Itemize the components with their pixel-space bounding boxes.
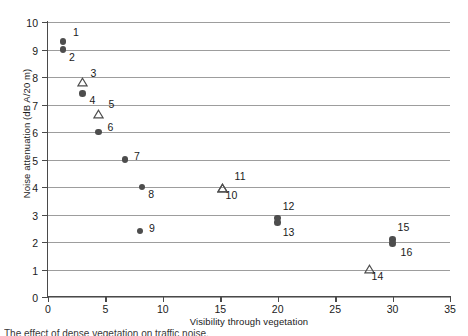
figure-caption: The effect of dense vegetation on traffi… bbox=[4, 328, 464, 336]
y-tick-label-1: 1 bbox=[14, 265, 38, 277]
y-tick-label-2: 2 bbox=[14, 237, 38, 249]
data-point-label-10: 10 bbox=[226, 189, 238, 201]
data-point-8 bbox=[139, 184, 146, 191]
data-point-label-12: 12 bbox=[283, 200, 295, 212]
y-tick-mark-1 bbox=[42, 270, 47, 271]
data-point-label-1: 1 bbox=[73, 26, 79, 38]
x-tick-mark-25 bbox=[335, 297, 336, 302]
data-point-label-6: 6 bbox=[108, 121, 114, 133]
x-tick-mark-35 bbox=[450, 297, 451, 302]
gridline-y-0 bbox=[48, 297, 450, 298]
data-point-2 bbox=[60, 46, 67, 53]
y-tick-mark-6 bbox=[42, 132, 47, 133]
data-point-label-8: 8 bbox=[148, 188, 154, 200]
data-point-label-9: 9 bbox=[149, 222, 155, 234]
data-point-label-11: 11 bbox=[235, 170, 246, 182]
x-tick-label-0: 0 bbox=[33, 303, 63, 315]
data-point-label-5: 5 bbox=[109, 98, 115, 110]
data-point-9 bbox=[137, 228, 144, 235]
x-tick-label-5: 5 bbox=[90, 303, 120, 315]
data-point-label-14: 14 bbox=[372, 270, 384, 282]
y-tick-mark-0 bbox=[42, 297, 47, 298]
data-point-3 bbox=[77, 77, 88, 87]
y-tick-label-10: 10 bbox=[14, 17, 38, 29]
y-tick-mark-3 bbox=[42, 215, 47, 216]
y-tick-mark-10 bbox=[42, 22, 47, 23]
data-point-label-7: 7 bbox=[134, 150, 140, 162]
data-point-label-3: 3 bbox=[90, 67, 96, 79]
data-point-label-16: 16 bbox=[401, 246, 413, 258]
x-tick-mark-15 bbox=[220, 297, 221, 302]
y-tick-mark-9 bbox=[42, 50, 47, 51]
y-tick-label-4: 4 bbox=[14, 182, 38, 194]
x-tick-label-10: 10 bbox=[148, 303, 178, 315]
x-tick-mark-30 bbox=[393, 297, 394, 302]
x-tick-label-15: 15 bbox=[205, 303, 235, 315]
x-tick-mark-20 bbox=[278, 297, 279, 302]
y-tick-label-3: 3 bbox=[14, 210, 38, 222]
data-point-13 bbox=[274, 219, 281, 226]
data-point-1 bbox=[60, 38, 67, 45]
data-point-6 bbox=[95, 129, 102, 136]
y-tick-label-7: 7 bbox=[14, 100, 38, 112]
y-tick-label-9: 9 bbox=[14, 45, 38, 57]
y-tick-label-8: 8 bbox=[14, 72, 38, 84]
x-tick-label-35: 35 bbox=[435, 303, 465, 315]
data-point-label-15: 15 bbox=[398, 221, 410, 233]
x-tick-mark-5 bbox=[105, 297, 106, 302]
x-tick-label-20: 20 bbox=[263, 303, 293, 315]
x-tick-label-30: 30 bbox=[378, 303, 408, 315]
y-tick-mark-4 bbox=[42, 187, 47, 188]
x-tick-mark-10 bbox=[163, 297, 164, 302]
data-point-label-4: 4 bbox=[89, 94, 95, 106]
x-tick-label-25: 25 bbox=[320, 303, 350, 315]
x-axis-title: Visibility through vegetation bbox=[48, 316, 450, 327]
data-point-7 bbox=[122, 156, 129, 163]
data-point-4 bbox=[79, 90, 86, 97]
scatter-chart-figure: Noise attenuation (dB A/20 m) Visibility… bbox=[0, 0, 468, 336]
y-tick-label-6: 6 bbox=[14, 127, 38, 139]
y-tick-mark-2 bbox=[42, 242, 47, 243]
x-tick-mark-0 bbox=[48, 297, 49, 302]
plot-area: 12467891213151635111014 bbox=[48, 22, 450, 297]
data-point-16 bbox=[389, 240, 396, 247]
y-tick-mark-7 bbox=[42, 105, 47, 106]
y-tick-mark-8 bbox=[42, 77, 47, 78]
y-tick-mark-5 bbox=[42, 160, 47, 161]
data-point-label-13: 13 bbox=[283, 226, 295, 238]
data-point-5 bbox=[93, 109, 104, 119]
data-point-label-2: 2 bbox=[69, 51, 75, 63]
y-tick-label-5: 5 bbox=[14, 155, 38, 167]
